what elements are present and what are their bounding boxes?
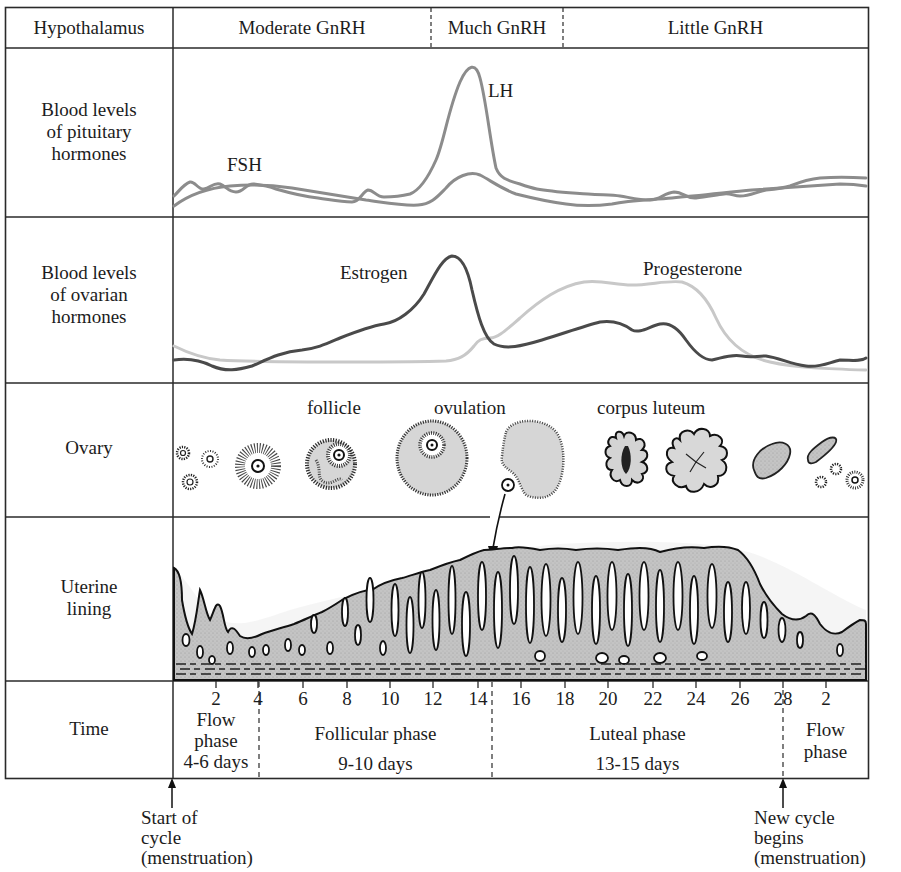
tick-label: 24 <box>687 689 706 709</box>
ovulation-arrow <box>493 494 505 548</box>
label-line: Uterine <box>5 576 173 598</box>
follicle-label: follicle <box>307 397 361 419</box>
flow-phase-1: Flow phase 4-6 days <box>173 709 259 772</box>
annotation-line: (menstruation) <box>141 848 253 868</box>
annotation-line: New cycle <box>754 808 866 828</box>
start-arrow-head-icon <box>168 778 176 788</box>
tick-label: 12 <box>424 689 443 709</box>
lh-curve <box>174 67 866 202</box>
row-label-ovary: Ovary <box>5 437 173 459</box>
phase-line: phase <box>783 741 868 763</box>
row-label-time: Time <box>5 718 173 740</box>
label-line: hormones <box>5 306 173 328</box>
tick-label: 18 <box>556 689 575 709</box>
corpus-luteum-label: corpus luteum <box>597 397 705 419</box>
ovarian-hormone-curves <box>174 256 866 370</box>
gnrh-moderate: Moderate GnRH <box>173 17 431 39</box>
primary-follicle-icon <box>240 448 276 484</box>
row-label-ovarian: Blood levels of ovarian hormones <box>5 262 173 328</box>
primordial-follicle-icon <box>831 464 841 474</box>
gnrh-much: Much GnRH <box>431 17 563 39</box>
corpus-luteum-mature-icon <box>666 429 727 492</box>
phase-line: 13-15 days <box>492 749 783 779</box>
flow-phase-2: Flow phase <box>783 719 868 763</box>
row-label-pituitary: Blood levels of pituitary hormones <box>5 99 173 165</box>
lh-label: LH <box>488 80 513 102</box>
annotation-line: (menstruation) <box>754 848 866 868</box>
phase-line: Follicular phase <box>259 719 492 749</box>
annotation-line: begins <box>754 828 866 848</box>
primary-follicle-icon <box>847 472 863 488</box>
cycle-markers <box>172 784 783 808</box>
ovulation-label: ovulation <box>434 397 506 419</box>
label-line: of pituitary <box>5 121 173 143</box>
corpus-luteum-early-icon <box>606 432 648 486</box>
label-line: Blood levels <box>5 262 173 284</box>
annotation-line: Start of <box>141 808 253 828</box>
tick-label: 6 <box>298 689 308 709</box>
primordial-follicle-icon <box>177 447 189 459</box>
uterine-lining-illustration <box>174 542 866 680</box>
phase-line: 4-6 days <box>173 751 259 772</box>
fsh-label: FSH <box>227 154 262 176</box>
tick-label: 28 <box>774 689 793 709</box>
tick-label: 20 <box>599 689 618 709</box>
luteal-phase: Luteal phase 13-15 days <box>492 719 783 779</box>
new-cycle-arrow-head-icon <box>779 778 787 788</box>
corpus-albicans-remnant-icon <box>808 438 837 464</box>
row-label-hypothalamus: Hypothalamus <box>5 17 173 39</box>
tick-label: 8 <box>342 689 352 709</box>
tick-label: 2 <box>211 689 221 709</box>
tick-label: 4 <box>253 689 263 709</box>
label-line: of ovarian <box>5 284 173 306</box>
gnrh-little: Little GnRH <box>563 17 868 39</box>
secondary-follicle-icon <box>307 440 355 488</box>
start-of-cycle-annotation: Start of cycle (menstruation) <box>141 808 253 868</box>
phase-line: Flow <box>173 709 259 730</box>
label-line: lining <box>5 598 173 620</box>
phase-line: phase <box>173 730 259 751</box>
progesterone-label: Progesterone <box>643 258 742 280</box>
mature-follicle-icon <box>397 421 467 495</box>
tick-label: 14 <box>469 689 488 709</box>
phase-line: Luteal phase <box>492 719 783 749</box>
tick-label: 10 <box>381 689 400 709</box>
ovary-structures <box>177 421 863 562</box>
new-cycle-annotation: New cycle begins (menstruation) <box>754 808 866 868</box>
corpus-albicans-icon <box>753 442 790 478</box>
primordial-follicle-icon <box>816 477 826 487</box>
estrogen-curve <box>174 256 866 370</box>
follicular-phase: Follicular phase 9-10 days <box>259 719 492 779</box>
tick-label: 16 <box>512 689 531 709</box>
tick-label: 22 <box>644 689 663 709</box>
estrogen-label: Estrogen <box>340 262 408 284</box>
pituitary-hormone-curves <box>174 67 866 206</box>
primordial-follicle-icon <box>183 475 197 489</box>
tick-label: 26 <box>731 689 750 709</box>
phase-line: 9-10 days <box>259 749 492 779</box>
primordial-follicle-icon <box>202 451 218 467</box>
time-axis-ticks <box>216 681 826 688</box>
row-label-uterine: Uterine lining <box>5 576 173 620</box>
tick-label: 2 <box>821 689 831 709</box>
ruptured-follicle-icon <box>502 421 564 498</box>
annotation-line: cycle <box>141 828 253 848</box>
label-line: Blood levels <box>5 99 173 121</box>
phase-line: Flow <box>783 719 868 741</box>
label-line: hormones <box>5 143 173 165</box>
